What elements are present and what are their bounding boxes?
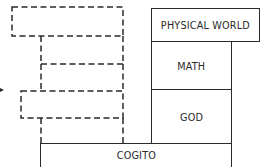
block-math: MATH	[151, 41, 232, 91]
block-label: PHYSICAL WORLD	[161, 19, 250, 31]
block-label: GOD	[180, 111, 203, 123]
dashed-block-1	[12, 7, 123, 36]
block-label: COGITO	[116, 149, 155, 161]
dashed-block-4	[21, 91, 123, 118]
block-label: MATH	[177, 60, 205, 72]
diagram-canvas: PHYSICAL WORLD MATH GOD COGITO	[0, 0, 269, 167]
block-god: GOD	[151, 89, 232, 144]
block-physical-world: PHYSICAL WORLD	[151, 8, 260, 42]
arrow-icon	[0, 88, 4, 92]
block-cogito: COGITO	[40, 143, 232, 168]
